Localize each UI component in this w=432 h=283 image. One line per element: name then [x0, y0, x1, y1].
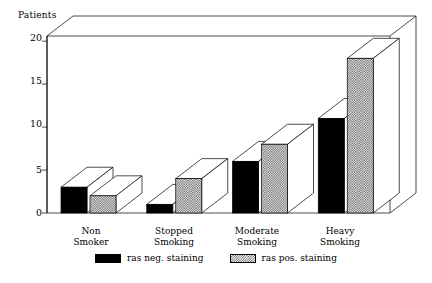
x-axis-label-0: NonSmoker [45, 226, 137, 247]
legend-label-ras-neg: ras neg. staining [127, 253, 203, 263]
x-axis-label-3: HeavySmoking [294, 226, 386, 247]
legend-label-ras-pos: ras pos. staining [262, 253, 337, 263]
legend-item-ras-pos: ras pos. staining [230, 253, 337, 263]
bar-1-1 [176, 159, 228, 213]
bar-1-3 [347, 38, 399, 213]
legend-item-ras-neg: ras neg. staining [95, 253, 203, 263]
bar-1-2 [262, 124, 314, 213]
legend-swatch-hatch-icon [230, 254, 256, 263]
chart-figure: Patients 20 15 10 5 0 NonSmoker StoppedS… [0, 0, 432, 283]
x-axis-label-1: StoppedSmoking [128, 226, 220, 247]
legend-swatch-solid-icon [95, 254, 121, 263]
bar-series-group [61, 38, 399, 213]
y-axis-ticks [42, 36, 47, 213]
x-axis-label-2: ModerateSmoking [211, 226, 303, 247]
chart-legend: ras neg. staining ras pos. staining [0, 253, 432, 263]
